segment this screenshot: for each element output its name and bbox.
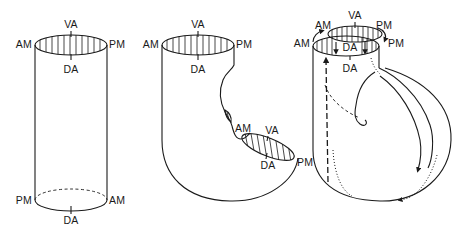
label-second-am: AM (235, 122, 251, 134)
dotted-path-left (333, 150, 352, 196)
band-mid-arrow (380, 76, 421, 170)
label-inner-am: AM (294, 37, 310, 49)
label-am: AM (143, 38, 159, 50)
bottom-rim-hidden (35, 189, 107, 200)
label-second-va: VA (265, 124, 279, 136)
label-second-da: DA (261, 159, 276, 171)
label-outer-pm: PM (376, 19, 392, 31)
label-inner-pm: PM (388, 37, 404, 49)
panel-bent-tube: VA AM PM DA AM VA DA PM (143, 18, 313, 201)
label-da: DA (343, 62, 358, 74)
label-da: DA (64, 63, 79, 75)
dotted-path-bottom (400, 155, 437, 200)
label-bottom-da: DA (64, 214, 79, 226)
tube-morphology-diagram: VA AM PM DA PM AM DA (0, 0, 467, 237)
label-bottom-am: AM (109, 194, 125, 206)
label-inner-da: DA (343, 41, 358, 53)
label-va: VA (64, 18, 78, 30)
panel-folded-tube: AM VA PM AM DA PM DA (294, 9, 451, 201)
label-bottom-pm: PM (16, 194, 32, 206)
band-inner-edge (355, 72, 375, 125)
label-pm: PM (109, 38, 125, 50)
band-outer-edge (379, 68, 433, 168)
label-outer-am: AM (315, 19, 331, 31)
label-va: VA (191, 18, 205, 30)
dashed-path-arrow (326, 60, 328, 182)
inner-rim (328, 26, 382, 42)
label-va: VA (348, 9, 362, 21)
label-second-pm: PM (297, 156, 313, 168)
label-am: AM (16, 38, 32, 50)
label-pm: PM (236, 38, 252, 50)
panel-straight-tube: VA AM PM DA PM AM DA (16, 18, 125, 226)
label-da: DA (191, 63, 206, 75)
